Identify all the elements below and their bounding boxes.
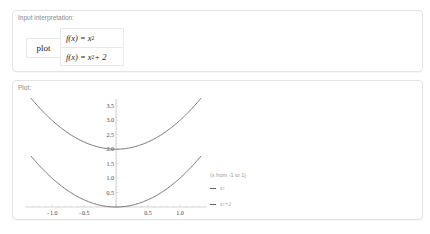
x-tick-label: 1.0 — [176, 210, 184, 216]
function-plot: −1.0−0.50.51.00.51.01.52.02.53.03.5 — [0, 0, 430, 234]
y-tick-label: 0.5 — [107, 190, 115, 196]
y-tick-label: 1.5 — [107, 161, 115, 167]
legend-swatch-icon — [210, 204, 216, 205]
y-tick-label: 3.5 — [107, 103, 115, 109]
legend-item-x-squared-plus-2: x2+2 — [210, 201, 231, 207]
legend-swatch-icon — [210, 188, 216, 189]
legend-label-rest: +2 — [224, 201, 230, 207]
y-tick-label: 1.0 — [107, 175, 115, 181]
y-tick-label: 2.5 — [107, 132, 115, 138]
legend-range: (x from -1 to 1) — [210, 172, 246, 178]
x-tick-label: 0.5 — [144, 210, 152, 216]
x-tick-label: −1.0 — [47, 210, 58, 216]
y-tick-label: 3.0 — [107, 117, 115, 123]
plot-axes: −1.0−0.50.51.00.51.01.52.02.53.03.5 — [26, 99, 207, 216]
legend-item-x-squared: x2 — [210, 185, 224, 191]
x-tick-label: −0.5 — [79, 210, 90, 216]
legend-label-exp: 2 — [222, 186, 224, 191]
